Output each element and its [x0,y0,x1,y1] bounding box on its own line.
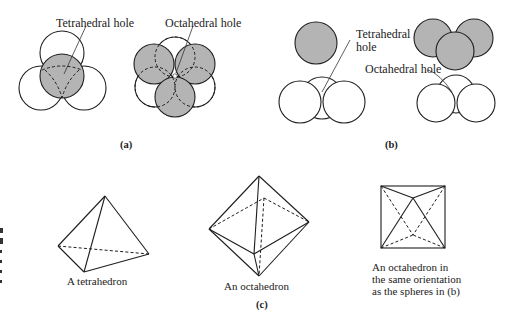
octahedral-hole-marker [173,74,177,78]
label-tetrahedral-hole-a: Tetrahedral hole [56,16,134,30]
oriented-octahedron-drawing [381,186,445,248]
sphere-white-left [417,84,455,122]
sphere-top-shaded [40,54,84,98]
panel-a: Tetrahedral hole Octahedral hole (a) [19,16,241,151]
label-tetrahedral-b-line2: hole [356,40,377,54]
cropped-edge-text-fragments [0,228,3,283]
tetrahedral-hole-sphere-cluster [19,26,106,110]
label-tetrahedral-b-line1: Tetrahedral [356,27,411,41]
tetrahedral-side-view [279,22,365,123]
sphere-gray-front [436,32,474,70]
label-oriented-octahedron-line1: An octahedron in [372,261,449,273]
octahedral-hole-sphere-cluster [134,26,215,117]
tetrahedron-drawing [58,196,149,272]
sphere-right [323,81,365,123]
label-octahedron: An octahedron [224,280,290,292]
label-oriented-octahedron-line3: as the spheres in (b) [372,285,460,298]
label-octahedral-hole-b: Octahedral hole [365,62,441,76]
label-tetrahedron: A tetrahedron [67,275,128,287]
caption-c: (c) [256,299,268,310]
label-octahedral-hole-a: Octahedral hole [165,16,241,30]
caption-b: (b) [385,139,398,151]
octahedron-drawing [209,176,309,276]
sphere-left [279,81,321,123]
panel-b: Tetrahedral hole Octahedral hole (b) [279,19,495,151]
sphere-top-shaded [295,22,337,64]
sphere-white-right [457,84,495,122]
caption-a: (a) [120,139,133,151]
panel-c: A tetrahedron An octahedron (c) [58,176,462,310]
label-oriented-octahedron-line2: the same orientation [372,273,462,285]
figure-canvas: Tetrahedral hole Octahedral hole (a) [0,0,507,310]
